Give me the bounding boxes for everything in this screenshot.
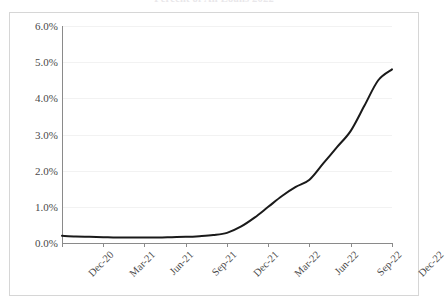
series-line-percent-of-loans	[62, 69, 392, 237]
